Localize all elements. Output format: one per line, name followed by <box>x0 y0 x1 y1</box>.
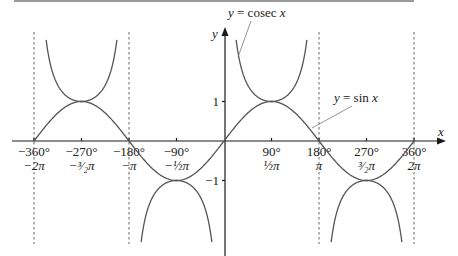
chart: x y −360°−2π−270°−³⁄₂π−180°−π−90°−½π90°½… <box>0 0 458 256</box>
x-tick-label-degrees: 270° <box>354 144 379 159</box>
x-tick-label-radians: 2π <box>407 158 421 173</box>
x-tick-label-radians: ³⁄₂π <box>358 158 376 173</box>
cosec-leader-line <box>238 21 251 57</box>
y-tick-label: −1 <box>205 173 219 188</box>
cosec-annotation: y = cosec x <box>226 5 286 20</box>
y-tick-label: 1 <box>213 94 220 109</box>
x-tick-label-degrees: −180° <box>113 144 145 159</box>
x-tick-label-degrees: 90° <box>262 144 280 159</box>
x-tick-label-radians: ½π <box>263 158 280 173</box>
x-tick-label-degrees: −90° <box>164 144 190 159</box>
y-axis-label: y <box>210 26 218 41</box>
x-tick-label-degrees: −270° <box>65 144 97 159</box>
sin-annotation: y = sin x <box>332 90 378 105</box>
cosec-branch <box>331 181 402 243</box>
x-axis-label: x <box>437 124 444 139</box>
cosec-branch <box>46 40 117 102</box>
sin-leader-line <box>312 106 352 128</box>
cosec-branch <box>141 181 212 243</box>
x-tick-label-radians: −2π <box>23 158 45 173</box>
cosec-branch <box>236 40 307 102</box>
x-tick-label-radians: −½π <box>164 158 190 173</box>
x-tick-label-radians: −π <box>121 158 137 173</box>
y-axis-arrow <box>222 27 229 36</box>
x-tick-label-radians: −³⁄₂π <box>69 158 95 173</box>
x-tick-label-degrees: −360° <box>18 144 50 159</box>
x-tick-label-radians: π <box>316 158 323 173</box>
